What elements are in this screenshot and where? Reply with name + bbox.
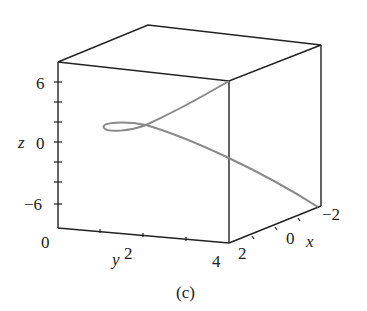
y-axis-label: y [110,250,120,269]
z-tick-6: 6 [36,74,45,93]
x-tick-neg2: −2 [322,205,340,224]
z-tick-0: 0 [36,134,45,153]
bounding-box [58,25,321,243]
figure-caption: (c) [176,283,195,302]
z-tick-neg6: −6 [24,195,42,214]
y-axis-ticks [100,229,186,241]
x-axis-label: x [305,232,314,251]
x-tick-2: 2 [238,244,247,263]
y-tick-4: 4 [212,252,221,271]
y-tick-0: 0 [41,233,50,252]
space-curve [104,81,318,207]
plot-3d: z 6 0 −6 0 y 2 4 2 0 x −2 (c) [0,0,367,311]
z-axis-label: z [17,133,25,152]
x-tick-0: 0 [286,229,295,248]
y-tick-2: 2 [124,244,133,263]
